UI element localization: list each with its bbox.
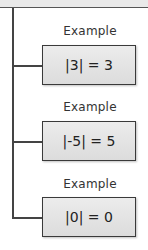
example-expression-1: |3| = 3 (65, 57, 113, 73)
example-box-3: |0| = 0 (42, 197, 136, 237)
connector-line-1 (12, 65, 42, 67)
example-box-1: |3| = 3 (42, 45, 136, 85)
connector-line-2 (12, 141, 42, 143)
example-label-3: Example (42, 177, 138, 191)
vertical-connector-line (12, 8, 14, 218)
example-label-2: Example (42, 100, 138, 114)
example-label-1: Example (42, 24, 138, 38)
top-header-strip (0, 0, 148, 8)
example-box-2: |-5| = 5 (42, 121, 136, 161)
connector-line-3 (12, 217, 42, 219)
example-expression-3: |0| = 0 (65, 209, 113, 225)
example-expression-2: |-5| = 5 (63, 133, 116, 149)
